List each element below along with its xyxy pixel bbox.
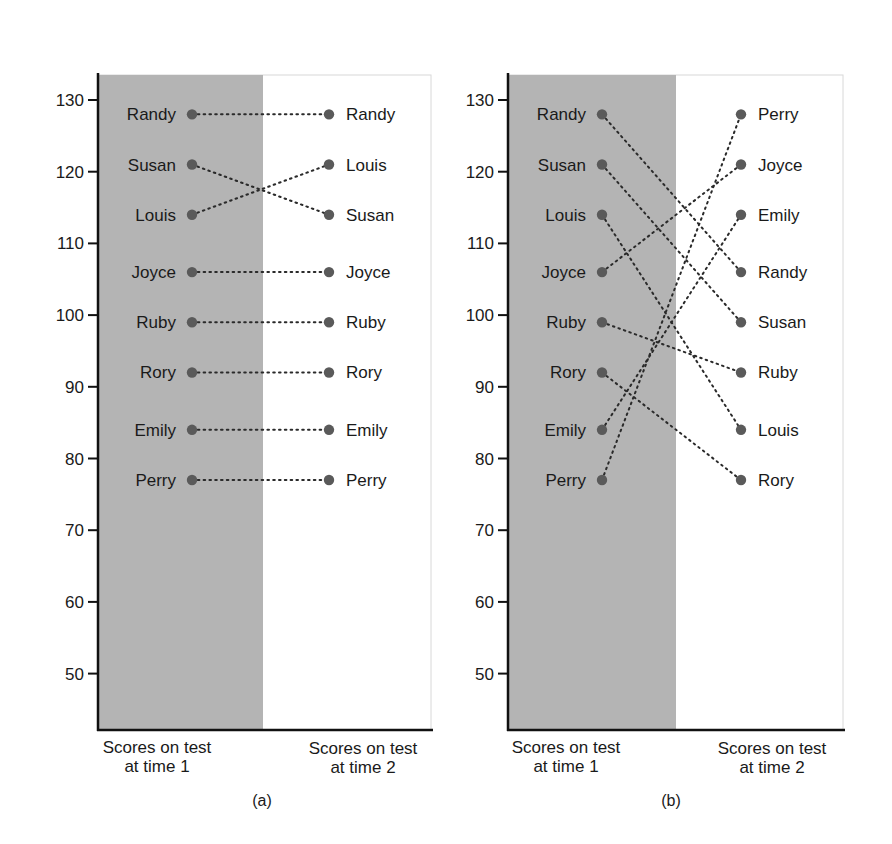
point-label-time-1: Ruby (136, 313, 176, 332)
x-label-time-2: Scores on test at time 2 (283, 739, 443, 777)
data-point-time-1 (597, 317, 607, 327)
x-label-time-1-line2: at time 1 (77, 757, 237, 776)
data-point-time-1 (597, 159, 607, 169)
point-label-time-1: Perry (135, 471, 176, 490)
y-tick-label: 80 (475, 450, 494, 469)
point-label-time-1: Randy (537, 105, 587, 124)
data-point-time-1 (187, 425, 197, 435)
data-point-time-1 (597, 210, 607, 220)
point-label-time-1: Randy (127, 105, 177, 124)
point-label-time-1: Susan (538, 156, 586, 175)
point-label-time-2: Emily (346, 421, 388, 440)
point-label-time-2: Randy (758, 263, 808, 282)
x-label-time-2-line2: at time 2 (692, 758, 852, 777)
y-tick-label: 50 (475, 665, 494, 684)
y-tick-label: 130 (466, 91, 494, 110)
data-point-time-2 (324, 317, 334, 327)
x-label-time-1: Scores on test at time 1 (486, 738, 646, 776)
slopegraph-high-reliability: 1301201101009080706050RandySusanLouisJoy… (0, 0, 446, 844)
point-label-time-2: Perry (346, 471, 387, 490)
data-point-time-1 (597, 109, 607, 119)
y-tick-label: 130 (56, 91, 84, 110)
x-label-time-1-line2: at time 1 (486, 757, 646, 776)
data-point-time-1 (187, 210, 197, 220)
data-point-time-2 (736, 210, 746, 220)
point-label-time-2: Randy (346, 105, 396, 124)
y-tick-label: 70 (65, 521, 84, 540)
point-label-time-2: Susan (758, 313, 806, 332)
point-label-time-1: Joyce (132, 263, 176, 282)
panel-label: (a) (242, 792, 282, 810)
y-tick-label: 90 (65, 378, 84, 397)
y-tick-label: 120 (466, 163, 494, 182)
point-label-time-1: Louis (135, 206, 176, 225)
y-tick-label: 90 (475, 378, 494, 397)
shaded-time-1-region (98, 75, 263, 730)
point-label-time-2: Joyce (758, 156, 802, 175)
x-label-time-2-line1: Scores on test (283, 739, 443, 758)
data-point-time-2 (324, 210, 334, 220)
data-point-time-1 (187, 109, 197, 119)
data-point-time-1 (187, 317, 197, 327)
x-label-time-2: Scores on test at time 2 (692, 739, 852, 777)
y-tick-label: 50 (65, 665, 84, 684)
data-point-time-2 (324, 267, 334, 277)
point-label-time-1: Rory (140, 363, 176, 382)
data-point-time-2 (736, 475, 746, 485)
point-label-time-2: Ruby (346, 313, 386, 332)
point-label-time-1: Susan (128, 156, 176, 175)
data-point-time-1 (597, 367, 607, 377)
panel-label: (b) (651, 792, 691, 810)
data-point-time-2 (324, 425, 334, 435)
point-label-time-2: Perry (758, 105, 799, 124)
data-point-time-2 (324, 109, 334, 119)
x-label-time-1: Scores on test at time 1 (77, 738, 237, 776)
data-point-time-2 (736, 425, 746, 435)
y-tick-label: 120 (56, 163, 84, 182)
point-label-time-1: Ruby (546, 313, 586, 332)
point-label-time-1: Rory (550, 363, 586, 382)
data-point-time-2 (736, 267, 746, 277)
point-label-time-2: Joyce (346, 263, 390, 282)
y-tick-label: 110 (467, 234, 494, 253)
x-label-time-1-line1: Scores on test (486, 738, 646, 757)
point-label-time-2: Ruby (758, 363, 798, 382)
shaded-time-1-region (508, 75, 676, 730)
panel-high-reliability: High Reliability 1301201101009080706050R… (0, 0, 446, 844)
point-label-time-2: Rory (346, 363, 382, 382)
point-label-time-1: Emily (134, 421, 176, 440)
y-tick-label: 80 (65, 450, 84, 469)
y-tick-label: 110 (57, 234, 84, 253)
data-point-time-1 (187, 159, 197, 169)
point-label-time-1: Perry (545, 471, 586, 490)
y-tick-label: 70 (475, 521, 494, 540)
point-label-time-1: Emily (544, 421, 586, 440)
y-tick-label: 100 (466, 306, 494, 325)
data-point-time-1 (187, 267, 197, 277)
x-label-time-2-line1: Scores on test (692, 739, 852, 758)
panel-low-reliability: Low Reliability 1301201101009080706050Ra… (446, 0, 892, 844)
data-point-time-1 (597, 267, 607, 277)
point-label-time-1: Joyce (542, 263, 586, 282)
y-tick-label: 60 (475, 593, 494, 612)
data-point-time-2 (736, 367, 746, 377)
data-point-time-2 (324, 367, 334, 377)
point-label-time-2: Louis (346, 156, 387, 175)
data-point-time-2 (324, 159, 334, 169)
point-label-time-2: Rory (758, 471, 794, 490)
slopegraph-low-reliability: 1301201101009080706050RandySusanLouisJoy… (446, 0, 892, 844)
point-label-time-2: Emily (758, 206, 800, 225)
data-point-time-2 (736, 109, 746, 119)
x-label-time-1-line1: Scores on test (77, 738, 237, 757)
data-point-time-1 (597, 425, 607, 435)
data-point-time-1 (597, 475, 607, 485)
data-point-time-2 (324, 475, 334, 485)
data-point-time-1 (187, 475, 197, 485)
y-tick-label: 60 (65, 593, 84, 612)
point-label-time-1: Louis (545, 206, 586, 225)
data-point-time-2 (736, 159, 746, 169)
data-point-time-1 (187, 367, 197, 377)
y-tick-label: 100 (56, 306, 84, 325)
point-label-time-2: Susan (346, 206, 394, 225)
x-label-time-2-line2: at time 2 (283, 758, 443, 777)
